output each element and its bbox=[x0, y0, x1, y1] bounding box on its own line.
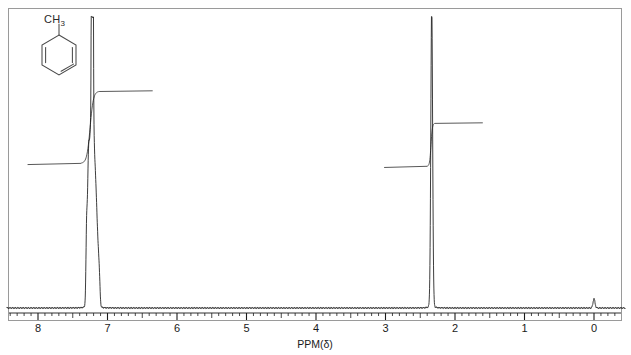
axis-tick-label-8: 8 bbox=[35, 322, 41, 334]
axis-tick-label-1: 1 bbox=[521, 322, 527, 334]
axis-tick-label-7: 7 bbox=[104, 322, 110, 334]
axis-title: PPM(δ) bbox=[297, 338, 333, 350]
nmr-spectrum-screenshot: CH3 876543210 PPM(δ) bbox=[0, 0, 631, 355]
axis-tick-label-4: 4 bbox=[313, 322, 319, 334]
spectrum-canvas bbox=[0, 0, 631, 355]
integral-methyl bbox=[384, 123, 483, 168]
axis-tick-label-3: 3 bbox=[382, 322, 388, 334]
axis-tick-label-5: 5 bbox=[243, 322, 249, 334]
axis-tick-label-2: 2 bbox=[452, 322, 458, 334]
axis-ticks bbox=[9, 313, 621, 320]
benzene-ring bbox=[42, 35, 76, 75]
spectrum-trace bbox=[7, 16, 626, 308]
axis-tick-label-0: 0 bbox=[591, 322, 597, 334]
methyl-label-subscript: 3 bbox=[61, 19, 66, 28]
axis-tick-label-6: 6 bbox=[174, 322, 180, 334]
methyl-label-text: CH bbox=[44, 13, 61, 25]
integral-traces bbox=[28, 91, 483, 168]
methyl-group-label: CH3 bbox=[44, 13, 65, 28]
